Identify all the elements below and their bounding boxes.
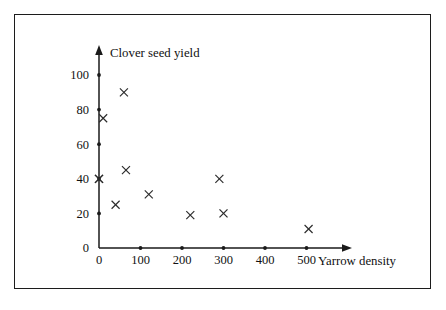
x-tick-label: 400: [256, 253, 275, 267]
plot-canvas: 0204060801000100200300400500 Clover seed…: [0, 0, 446, 310]
data-point-marker: [112, 201, 120, 209]
y-tick-label: 0: [83, 241, 89, 255]
x-tick-label: 100: [131, 253, 150, 267]
x-tick-label: 500: [297, 253, 316, 267]
scatter-plot-figure: 0204060801000100200300400500 Clover seed…: [0, 0, 446, 310]
x-tick-label: 0: [96, 253, 102, 267]
data-point-marker: [215, 175, 223, 183]
axis-tick-labels: 0204060801000100200300400500: [70, 68, 316, 267]
y-tick-label: 20: [77, 207, 90, 221]
x-tick-label: 200: [173, 253, 192, 267]
y-tick-label: 40: [77, 172, 90, 186]
data-point-marker: [122, 166, 130, 174]
data-point-marker: [186, 211, 194, 219]
x-tick-dot: [305, 246, 309, 250]
data-point-marker: [99, 114, 107, 122]
x-tick-dot: [263, 246, 267, 250]
x-tick-dot: [222, 246, 226, 250]
x-tick-dot: [180, 246, 184, 250]
y-tick-dot: [97, 142, 101, 146]
y-tick-label: 100: [70, 68, 89, 82]
data-point-marker: [120, 88, 128, 96]
y-axis-title: Clover seed yield: [110, 46, 200, 60]
data-point-marker: [220, 209, 228, 217]
y-tick-label: 80: [77, 103, 90, 117]
y-tick-dot: [97, 108, 101, 112]
x-axis-title: Yarrow density: [318, 254, 397, 268]
x-axis-arrow-icon: [342, 244, 352, 252]
data-markers: [95, 88, 313, 233]
data-point-marker: [145, 190, 153, 198]
x-tick-label: 300: [214, 253, 233, 267]
y-axis-arrow-icon: [95, 45, 103, 55]
y-tick-dot: [97, 73, 101, 77]
y-tick-dot: [97, 212, 101, 216]
y-tick-label: 60: [77, 138, 90, 152]
data-point-marker: [305, 225, 313, 233]
x-tick-dot: [139, 246, 143, 250]
